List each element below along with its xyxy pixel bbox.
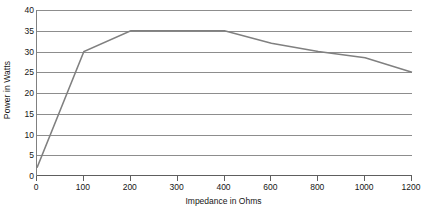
x-tick-label-200: 200 — [123, 183, 137, 192]
x-tick-label-100: 100 — [76, 183, 90, 192]
y-tick-label-0: 0 — [14, 172, 34, 181]
y-tick-label-20: 20 — [14, 89, 34, 98]
series-layer — [37, 10, 412, 176]
plot-area — [36, 10, 412, 176]
y-tick-label-30: 30 — [14, 47, 34, 56]
line-chart: Power in Watts 0510152025303540 01002003… — [0, 0, 431, 216]
x-tick-mark-0 — [36, 176, 37, 181]
y-tick-label-40: 40 — [14, 6, 34, 15]
y-tick-label-35: 35 — [14, 27, 34, 36]
x-tick-mark-300 — [177, 176, 178, 181]
y-axis-title-label: Power in Watts — [2, 61, 12, 119]
x-tick-label-1200: 1200 — [402, 183, 421, 192]
x-tick-label-800: 800 — [310, 183, 324, 192]
y-axis-title: Power in Watts — [0, 0, 14, 180]
x-tick-mark-200 — [130, 176, 131, 181]
x-tick-label-400: 400 — [216, 183, 230, 192]
y-tick-label-15: 15 — [14, 110, 34, 119]
x-tick-mark-100 — [83, 176, 84, 181]
x-tick-mark-1000 — [364, 176, 365, 181]
x-tick-mark-600 — [270, 176, 271, 181]
x-axis-title: Impedance in Ohms — [36, 196, 411, 206]
x-tick-mark-400 — [224, 176, 225, 181]
y-tick-label-25: 25 — [14, 68, 34, 77]
x-tick-label-1000: 1000 — [355, 183, 374, 192]
y-tick-label-5: 5 — [14, 151, 34, 160]
y-axis-tick-labels: 0510152025303540 — [14, 10, 34, 176]
x-tick-mark-1200 — [411, 176, 412, 181]
series-line-power — [37, 31, 412, 168]
x-tick-label-300: 300 — [170, 183, 184, 192]
x-tick-mark-800 — [317, 176, 318, 181]
x-tick-label-0: 0 — [34, 183, 39, 192]
y-tick-label-10: 10 — [14, 130, 34, 139]
x-axis-title-label: Impedance in Ohms — [185, 196, 261, 206]
x-tick-label-600: 600 — [263, 183, 277, 192]
